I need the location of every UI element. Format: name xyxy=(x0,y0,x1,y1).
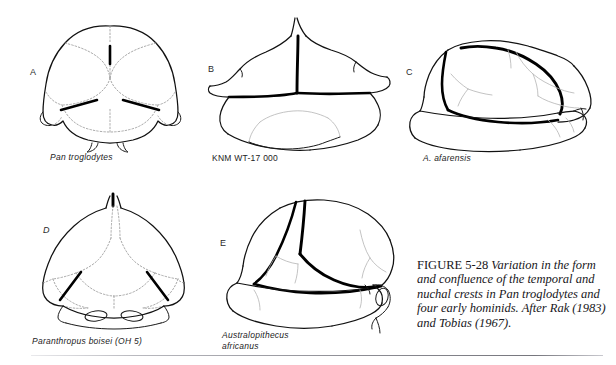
panel-b-specimen-label: KNM WT-17 000 xyxy=(212,153,278,164)
panel-b-drawing xyxy=(198,12,398,152)
panel-d-specimen-label: Paranthropus boisei (OH 5) xyxy=(32,336,142,347)
panel-d: D xyxy=(18,190,213,345)
bottom-divider xyxy=(31,355,603,356)
panel-e-letter: E xyxy=(220,238,226,248)
figure-page: A xyxy=(0,0,616,365)
panel-c-specimen-label: A. afarensis xyxy=(423,153,471,164)
panel-d-drawing xyxy=(18,190,213,335)
panel-a-letter: A xyxy=(30,67,36,77)
panel-a-specimen-label: Pan troglodytes xyxy=(50,152,113,163)
panel-a: A xyxy=(18,12,203,162)
panel-a-drawing xyxy=(18,12,203,152)
panel-b-letter: B xyxy=(208,64,214,74)
panel-e: E xyxy=(210,190,410,345)
panel-d-letter: D xyxy=(43,225,50,235)
figure-caption: FIGURE 5-28 Variation in the form and co… xyxy=(417,258,609,330)
panel-e-drawing xyxy=(210,190,410,335)
panel-c: C xyxy=(398,12,616,162)
panel-c-letter: C xyxy=(406,67,413,77)
figure-number-label: FIGURE 5-28 xyxy=(417,258,488,272)
panel-b: B KN xyxy=(198,12,398,162)
panel-e-specimen-label: Australopithecus africanus xyxy=(222,330,289,351)
panel-c-drawing xyxy=(398,12,616,152)
